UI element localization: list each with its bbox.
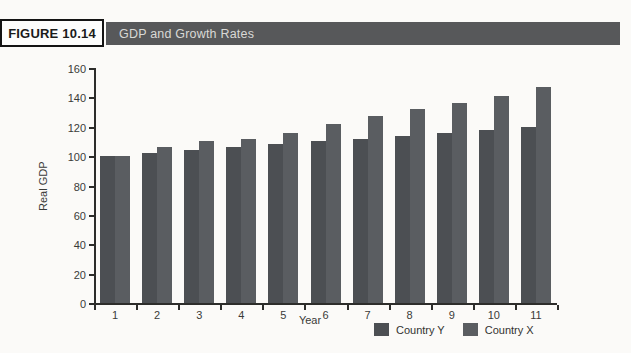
x-tick-mark bbox=[220, 305, 222, 310]
bar-country-x-year-9 bbox=[452, 103, 467, 303]
x-tick-label-year-1: 1 bbox=[100, 309, 130, 321]
bar-country-x-year-6 bbox=[326, 124, 341, 303]
y-tick-label: 80 bbox=[54, 181, 86, 193]
y-tick-label: 40 bbox=[54, 239, 86, 251]
bar-country-x-year-8 bbox=[410, 109, 425, 303]
bar-country-y-year-9 bbox=[437, 133, 452, 303]
x-tick-label-year-4: 4 bbox=[226, 309, 256, 321]
x-tick-mark bbox=[473, 305, 475, 310]
y-tick-mark bbox=[89, 97, 94, 99]
x-tick-label-year-6: 6 bbox=[311, 309, 341, 321]
gdp-bar-chart: Real GDP Year 02040608010012014016012345… bbox=[0, 0, 631, 353]
bar-country-y-year-4 bbox=[226, 147, 241, 303]
x-tick-label-year-9: 9 bbox=[437, 309, 467, 321]
bar-country-x-year-7 bbox=[368, 116, 383, 303]
x-tick-label-year-8: 8 bbox=[395, 309, 425, 321]
x-tick-mark bbox=[304, 305, 306, 310]
y-tick-label: 100 bbox=[54, 151, 86, 163]
y-tick-mark bbox=[89, 68, 94, 70]
x-tick-label-year-2: 2 bbox=[142, 309, 172, 321]
y-tick-mark bbox=[89, 215, 94, 217]
x-tick-label-year-7: 7 bbox=[353, 309, 383, 321]
textbook-figure-page: FIGURE 10.14 GDP and Growth Rates Real G… bbox=[0, 0, 631, 353]
legend-item-country-y: Country Y bbox=[374, 323, 445, 336]
x-tick-mark bbox=[178, 305, 180, 310]
x-tick-mark bbox=[515, 305, 517, 310]
bar-country-y-year-3 bbox=[184, 150, 199, 303]
y-tick-mark bbox=[89, 156, 94, 158]
y-tick-mark bbox=[89, 274, 94, 276]
y-tick-label: 140 bbox=[54, 92, 86, 104]
y-tick-mark bbox=[89, 244, 94, 246]
bar-country-y-year-5 bbox=[268, 144, 283, 303]
x-tick-label-year-10: 10 bbox=[479, 309, 509, 321]
figure-number-text: FIGURE 10.14 bbox=[8, 26, 96, 41]
y-tick-mark bbox=[89, 127, 94, 129]
bar-country-x-year-5 bbox=[283, 133, 298, 303]
legend-swatch-icon bbox=[374, 323, 389, 336]
figure-title-text: GDP and Growth Rates bbox=[119, 27, 254, 41]
y-axis-line bbox=[94, 68, 96, 305]
bar-country-x-year-10 bbox=[494, 96, 509, 303]
x-tick-mark bbox=[136, 305, 138, 310]
figure-title-banner: GDP and Growth Rates bbox=[106, 22, 620, 45]
bar-country-x-year-3 bbox=[199, 141, 214, 303]
x-tick-mark bbox=[389, 305, 391, 310]
legend-swatch-icon bbox=[463, 323, 478, 336]
bar-country-x-year-11 bbox=[536, 87, 551, 303]
y-axis-label: Real GDP bbox=[36, 146, 50, 226]
x-tick-mark bbox=[262, 305, 264, 310]
bar-country-y-year-10 bbox=[479, 130, 494, 303]
x-tick-label-year-5: 5 bbox=[268, 309, 298, 321]
x-axis-line bbox=[94, 303, 557, 305]
legend-label: Country Y bbox=[396, 324, 445, 336]
x-tick-mark bbox=[94, 305, 96, 310]
bar-country-x-year-4 bbox=[241, 139, 256, 304]
bar-country-x-year-1 bbox=[115, 156, 130, 303]
y-tick-label: 20 bbox=[54, 269, 86, 281]
bar-country-y-year-1 bbox=[100, 156, 115, 303]
y-tick-mark bbox=[89, 186, 94, 188]
bar-country-y-year-7 bbox=[353, 139, 368, 304]
legend-label: Country X bbox=[485, 324, 534, 336]
bar-country-y-year-11 bbox=[521, 127, 536, 303]
x-tick-mark bbox=[431, 305, 433, 310]
bar-country-y-year-6 bbox=[311, 141, 326, 303]
bar-country-y-year-8 bbox=[395, 136, 410, 303]
x-tick-mark bbox=[347, 305, 349, 310]
figure-number-label: FIGURE 10.14 bbox=[0, 19, 104, 47]
y-tick-label: 60 bbox=[54, 210, 86, 222]
x-tick-label-year-11: 11 bbox=[521, 309, 551, 321]
y-tick-label: 120 bbox=[54, 122, 86, 134]
x-tick-label-year-3: 3 bbox=[184, 309, 214, 321]
legend-item-country-x: Country X bbox=[463, 323, 534, 336]
chart-legend: Country YCountry X bbox=[374, 323, 534, 336]
bar-country-y-year-2 bbox=[142, 153, 157, 303]
x-tick-mark bbox=[557, 305, 559, 310]
y-tick-label: 160 bbox=[54, 63, 86, 75]
y-tick-label: 0 bbox=[54, 298, 86, 310]
bar-country-x-year-2 bbox=[157, 147, 172, 303]
